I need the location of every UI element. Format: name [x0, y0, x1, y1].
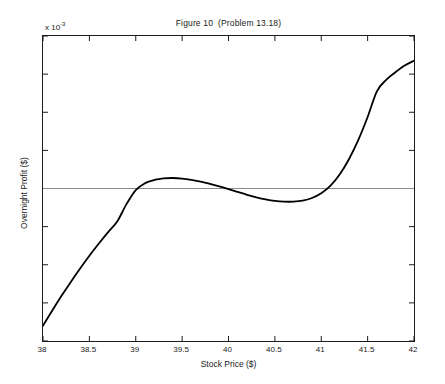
- series-line: [43, 61, 414, 326]
- plot-canvas: [43, 36, 414, 341]
- x-tick-label: 38.5: [63, 345, 113, 354]
- y-axis-title: Overnight Profit ($): [19, 113, 29, 273]
- x-tick-label: 39.5: [156, 345, 206, 354]
- x-tick-label: 40.5: [249, 345, 299, 354]
- x-tick-label: 41: [295, 345, 345, 354]
- x-tick-label: 39: [110, 345, 160, 354]
- y-axis-exponent-prefix: x 10: [45, 23, 60, 32]
- x-tick-label: 38: [17, 345, 67, 354]
- x-tick-label: 41.5: [342, 345, 392, 354]
- x-axis-title: Stock Price ($): [42, 359, 415, 369]
- matlab-figure: Figure 10 (Problem 13.18) x 10-3 -8-6-4-…: [0, 0, 445, 384]
- chart-title: Figure 10 (Problem 13.18): [42, 18, 415, 28]
- y-axis-exponent-label: x 10-3: [45, 21, 65, 32]
- plot-area: [42, 35, 415, 342]
- y-axis-exponent-power: -3: [60, 21, 65, 27]
- x-tick-label: 40: [203, 345, 253, 354]
- x-tick-label: 42: [388, 345, 438, 354]
- data-curve: [43, 61, 414, 326]
